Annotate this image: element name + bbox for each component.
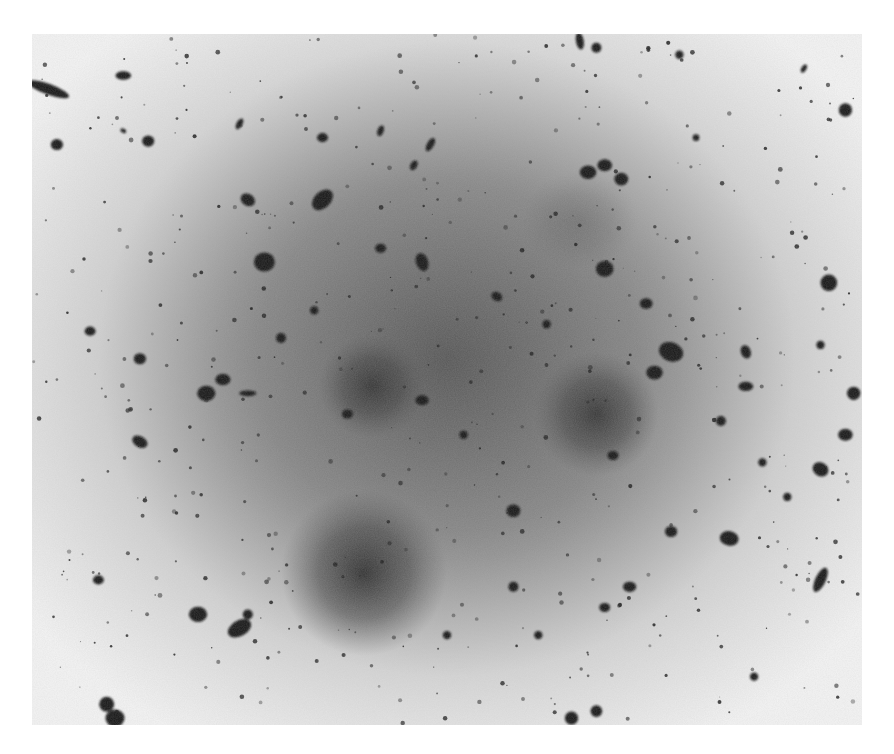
film-grain xyxy=(32,34,862,725)
photographic-plate-canvas xyxy=(32,34,862,725)
galaxy-cluster-photograph xyxy=(32,34,862,725)
